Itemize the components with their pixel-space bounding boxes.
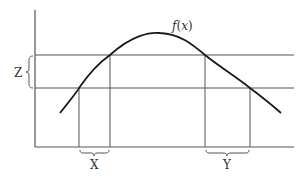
y-label: Y: [222, 158, 232, 172]
z-brace: [26, 56, 33, 88]
x-brace: [80, 150, 109, 156]
function-diagram: f(x) Z X Y: [0, 0, 307, 180]
y-brace: [206, 150, 249, 156]
function-curve: [60, 33, 281, 113]
function-label: f(x): [171, 19, 193, 33]
z-label: Z: [14, 66, 22, 80]
x-label: X: [90, 158, 99, 172]
